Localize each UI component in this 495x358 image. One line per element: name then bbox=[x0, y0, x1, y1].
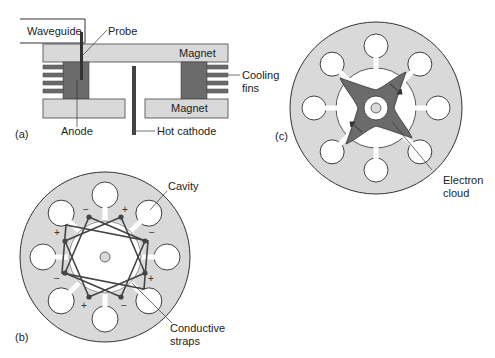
polarity-4: + bbox=[148, 273, 154, 284]
polarity-5: − bbox=[121, 300, 127, 311]
magnet-bottom-label: Magnet bbox=[171, 102, 208, 114]
polarity-3: − bbox=[149, 227, 155, 238]
probe bbox=[80, 32, 83, 80]
hot-cathode bbox=[132, 66, 136, 135]
hot-cathode-label: Hot cathode bbox=[157, 125, 216, 137]
anode-left bbox=[63, 62, 89, 99]
waveguide-label: Waveguide bbox=[27, 25, 82, 37]
panel-a-label: (a) bbox=[15, 128, 28, 140]
cooling-fins-left bbox=[43, 65, 63, 93]
polarity-8: + bbox=[54, 227, 60, 238]
cavity-label: Cavity bbox=[168, 180, 199, 192]
straps-label-2: straps bbox=[170, 335, 200, 347]
cooling-fins-right bbox=[207, 65, 228, 93]
polarity-6: + bbox=[81, 300, 87, 311]
polarity-7: − bbox=[54, 273, 60, 284]
magnetron-diagram: Waveguide Probe Magnet Magnet Cooling fi… bbox=[0, 0, 495, 358]
probe-label: Probe bbox=[108, 25, 137, 37]
cathode-c bbox=[371, 103, 381, 113]
polarity-2: + bbox=[122, 204, 128, 215]
panel-a: Waveguide Probe Magnet Magnet Cooling fi… bbox=[15, 19, 279, 140]
cathode-b bbox=[100, 252, 110, 262]
cooling-fins-label-1: Cooling bbox=[242, 69, 279, 81]
electron-cloud-label-1: Electron bbox=[443, 174, 483, 186]
panel-c bbox=[290, 22, 462, 194]
straps-label-1: Conductive bbox=[170, 322, 225, 334]
anode-label: Anode bbox=[61, 125, 93, 137]
magnet-bottom-left bbox=[43, 99, 125, 118]
panel-b-label: (b) bbox=[15, 331, 28, 343]
panel-c-label: (c) bbox=[275, 130, 288, 142]
cooling-fins-label-2: fins bbox=[242, 82, 260, 94]
magnet-top-label: Magnet bbox=[179, 47, 216, 59]
panel-b: − + − + − + − + bbox=[20, 172, 190, 342]
anode-right bbox=[181, 62, 207, 99]
electron-cloud-label-2: cloud bbox=[443, 187, 469, 199]
polarity-1: − bbox=[83, 204, 89, 215]
